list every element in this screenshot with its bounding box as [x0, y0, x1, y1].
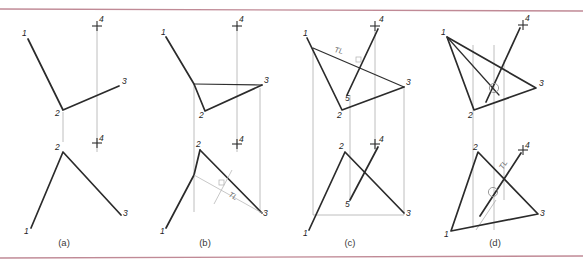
panel-c-label-front-1: 1 [303, 228, 308, 238]
panel-c-top-line-4-5 [347, 29, 378, 95]
panel-d-top-line-4-pierce [486, 28, 520, 102]
panel-c-front-line-1-2-3 [309, 152, 404, 230]
panel-a-label-top-2: 2 [54, 108, 60, 118]
panel-c-label-top-1: 1 [303, 28, 308, 38]
panel-c-top-line-1-2-3 [307, 38, 404, 110]
panel-c-top-right-angle-mark [356, 57, 361, 62]
panel-d-label-front-4: 4 [525, 140, 530, 150]
panel-a-label-front-2: 2 [54, 142, 60, 152]
panel-a: 1 2 3 4 2 4 1 3 (a) [22, 14, 128, 248]
panel-d-label-tl: TL [497, 159, 509, 171]
bottom-rule [0, 256, 583, 258]
panel-d-label-front-3: 3 [540, 208, 545, 218]
panel-c-label-top-5: 5 [345, 93, 350, 103]
panel-b-front-line-2-1 [166, 150, 200, 228]
panel-a-label-front-3: 3 [123, 208, 128, 218]
panel-d-label-top-2: 2 [467, 110, 473, 120]
panel-b-right-angle-mark [219, 180, 224, 185]
panel-b-label-front-2: 2 [195, 139, 201, 149]
panel-d-label-front-2: 2 [472, 142, 478, 152]
panel-c-top-line-1-3 [313, 48, 404, 87]
panel-d-front-triangle-1-2-3 [451, 152, 538, 231]
panel-b-front-line-2-3 [200, 150, 262, 213]
panel-c-label-top-4: 4 [379, 14, 384, 24]
panel-d-label-top-1: 1 [441, 27, 446, 37]
panel-a-top-line-1-2-3 [28, 39, 119, 110]
panel-b-caption: (b) [199, 237, 211, 248]
panel-c-label-front-3: 3 [406, 208, 411, 218]
panel-c-caption: (c) [344, 237, 355, 248]
panel-b-label-top-3: 3 [264, 75, 269, 85]
panel-a-label-front-1: 1 [24, 226, 29, 236]
panel-a-caption: (a) [58, 237, 70, 248]
panel-a-label-top-1: 1 [22, 28, 27, 38]
panel-b-top-line-1-2-3 [166, 37, 262, 111]
panel-b-top-line-2-3-chord [194, 84, 262, 85]
panel-b-label-top-2: 2 [198, 110, 204, 120]
descriptive-geometry-figure: 1 2 3 4 2 4 1 3 (a) TL [0, 0, 588, 268]
panel-c-front-line-4-5 [350, 147, 378, 200]
panel-d-label-top-4: 4 [525, 13, 530, 23]
panel-b-label-front-3: 3 [263, 208, 268, 218]
panel-c-label-front-2: 2 [338, 141, 344, 151]
panel-b-label-top-1: 1 [161, 27, 166, 37]
panel-d-label-top-3: 3 [539, 78, 544, 88]
panel-c-label-front-4: 4 [379, 134, 384, 144]
panel-c-label-top-3: 3 [406, 77, 411, 87]
panel-d-label-front-1: 1 [444, 229, 449, 239]
panel-b-label-tl: TL [227, 190, 239, 202]
panel-b-label-front-4: 4 [239, 134, 244, 144]
panel-a-label-top-3: 3 [122, 76, 127, 86]
panel-c: TL 1 2 3 4 5 2 4 5 1 3 (c) [303, 14, 411, 248]
panel-b-label-top-4: 4 [239, 14, 244, 24]
top-rule [0, 9, 583, 11]
panel-b: TL 1 2 3 4 2 4 1 3 (b) [160, 14, 269, 248]
panel-c-label-tl: TL [334, 45, 344, 56]
figure-root: 1 2 3 4 2 4 1 3 (a) TL [0, 0, 588, 268]
panel-c-label-front-5: 5 [345, 199, 350, 209]
panel-d-caption: (d) [489, 237, 501, 248]
panel-d: TL 1 2 3 4 2 4 1 3 (d) [441, 13, 545, 248]
panel-a-label-top-4: 4 [99, 14, 104, 24]
panel-c-label-top-2: 2 [336, 110, 342, 120]
panel-a-label-front-4: 4 [99, 133, 104, 143]
panel-b-label-front-1: 1 [160, 226, 165, 236]
panel-d-top-triangle-1-2-3 [447, 37, 536, 110]
panel-a-front-line-1-2-3 [31, 152, 121, 228]
